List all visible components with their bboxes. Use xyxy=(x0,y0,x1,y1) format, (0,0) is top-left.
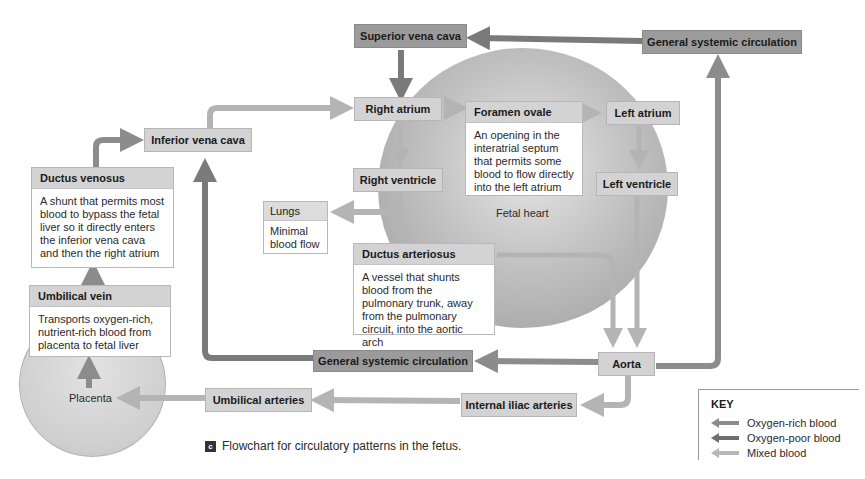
aorta-box: Aorta xyxy=(598,352,655,376)
right-atrium-box: Right atrium xyxy=(354,97,442,121)
superior-vena-cava-box: Superior vena cava xyxy=(354,24,467,48)
general-systemic-circulation-bottom-box: General systemic circulation xyxy=(313,350,473,372)
arrow-aorta-to-gsc-bottom xyxy=(486,361,598,362)
foramen-ovale-title: Foramen ovale xyxy=(466,102,582,123)
umbilical-vein-card: Umbilical vein Transports oxygen-rich, n… xyxy=(29,285,171,357)
lungs-description: Minimal blood flow xyxy=(264,221,327,255)
lungs-card: Lungs Minimal blood flow xyxy=(263,201,328,254)
foramen-ovale-description: An opening in the interatrial septum tha… xyxy=(466,123,582,200)
inferior-vena-cava-box: Inferior vena cava xyxy=(144,128,252,152)
left-ventricle-box: Left ventricle xyxy=(596,172,678,196)
arrow-left-icon xyxy=(711,418,739,428)
arrow-dv-to-ivc xyxy=(96,140,132,168)
caption-badge: c xyxy=(205,441,216,452)
right-ventricle-box: Right ventricle xyxy=(353,168,443,192)
left-atrium-box: Left atrium xyxy=(606,101,680,125)
lungs-title: Lungs xyxy=(264,202,327,221)
ductus-arteriosus-description: A vessel that shunts blood from the pulm… xyxy=(354,265,494,355)
ductus-venosus-card: Ductus venosus A shunt that permits most… xyxy=(31,167,174,268)
ductus-venosus-title: Ductus venosus xyxy=(32,168,173,189)
arrow-da-to-aorta xyxy=(497,255,613,338)
key-label: Oxygen-poor blood xyxy=(747,432,841,444)
arrow-aorta-to-iliac xyxy=(592,376,628,405)
umbilical-vein-title: Umbilical vein xyxy=(30,286,170,307)
fetal-heart-label: Fetal heart xyxy=(496,207,549,219)
key-label: Mixed blood xyxy=(747,447,806,459)
caption-text: Flowchart for circulatory patterns in th… xyxy=(222,439,461,453)
ductus-arteriosus-card: Ductus arteriosus A vessel that shunts b… xyxy=(353,243,495,335)
key-label: Oxygen-rich blood xyxy=(747,417,836,429)
key-item-oxygen-poor: Oxygen-poor blood xyxy=(711,432,841,444)
umbilical-vein-description: Transports oxygen-rich, nutrient-rich bl… xyxy=(30,307,170,358)
ductus-arteriosus-title: Ductus arteriosus xyxy=(354,244,494,265)
arrow-left-icon xyxy=(711,448,739,458)
ductus-venosus-description: A shunt that permits most blood to bypas… xyxy=(32,189,173,266)
arrow-left-icon xyxy=(711,433,739,443)
arrow-ivc-to-ra xyxy=(210,108,342,128)
key-title: KEY xyxy=(711,398,734,410)
figure-caption: c Flowchart for circulatory patterns in … xyxy=(205,439,461,453)
arrow-gsc-bottom-to-ivc xyxy=(205,170,313,358)
general-systemic-circulation-top-box: General systemic circulation xyxy=(642,30,802,54)
umbilical-arteries-box: Umbilical arteries xyxy=(205,388,312,412)
legend-key: KEY Oxygen-rich blood Oxygen-poor blood … xyxy=(698,389,859,460)
arrow-gsc-to-svc xyxy=(478,38,642,41)
arrow-iliac-to-umbilical xyxy=(322,400,460,401)
internal-iliac-arteries-box: Internal iliac arteries xyxy=(461,393,577,417)
foramen-ovale-card: Foramen ovale An opening in the interatr… xyxy=(465,101,583,196)
placenta-label: Placenta xyxy=(69,392,112,404)
key-item-mixed: Mixed blood xyxy=(711,447,806,459)
key-item-oxygen-rich: Oxygen-rich blood xyxy=(711,417,836,429)
